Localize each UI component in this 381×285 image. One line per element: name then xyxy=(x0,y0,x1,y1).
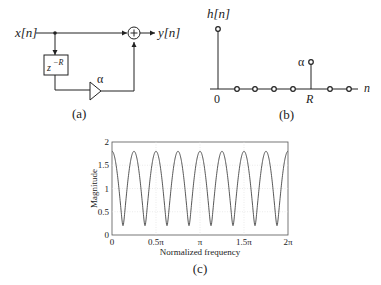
y-tick-label: 1.5 xyxy=(98,160,110,170)
x-axis-label: Normalized frequency xyxy=(160,247,241,257)
delay-output-line xyxy=(55,75,90,90)
y-tick-labels: 00.511.52 xyxy=(98,137,110,240)
h-label: h[n] xyxy=(207,6,230,21)
caption-a: (a) xyxy=(72,106,86,121)
panel-a-block-diagram: x[n] z −R α y[n] (a) xyxy=(14,25,180,121)
panel-c-magnitude-chart: 00.511.52 00.5ππ1.5π2π Normalized freque… xyxy=(89,137,293,276)
origin-label: 0 xyxy=(214,92,220,106)
caption-b: (b) xyxy=(279,107,294,122)
gain-label: α xyxy=(97,72,104,86)
y-tick-label: 0 xyxy=(105,230,110,240)
x-tick-labels: 00.5ππ1.5π2π xyxy=(110,237,293,247)
x-tick-label: 2π xyxy=(283,237,293,247)
delay-exponent-label: −R xyxy=(53,58,63,67)
x-tick-label: 0 xyxy=(110,237,115,247)
y-tick-label: 0.5 xyxy=(98,207,110,217)
x-tick-label: π xyxy=(198,237,203,247)
input-label: x[n] xyxy=(14,25,37,40)
n-label: n xyxy=(364,81,370,95)
r-label: R xyxy=(305,92,314,106)
x-tick-label: 0.5π xyxy=(148,237,164,247)
feedback-to-adder-line xyxy=(101,42,134,91)
stem-R-marker xyxy=(309,60,314,65)
y-axis-label: Magnitude xyxy=(89,169,99,208)
alpha-label: α xyxy=(298,55,305,69)
panel-b-impulse-response: h[n] n 0 α R (b) xyxy=(207,6,370,122)
x-tick-label: 1.5π xyxy=(236,237,252,247)
stem-0-marker xyxy=(216,27,221,32)
y-tick-label: 1 xyxy=(105,184,110,194)
delay-z-label: z xyxy=(46,62,51,73)
caption-c: (c) xyxy=(193,261,207,276)
y-tick-label: 2 xyxy=(105,137,110,147)
output-label: y[n] xyxy=(156,25,180,40)
